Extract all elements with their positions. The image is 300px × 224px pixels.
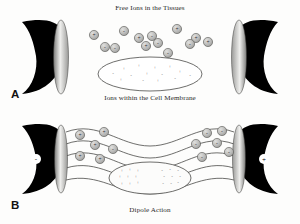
left-transducer-a: [22, 20, 69, 94]
membrane-charge-positive: +: [154, 65, 157, 70]
panel-b-letter: B: [11, 199, 19, 211]
membrane-charge-positive: +: [138, 63, 141, 68]
ion-negative: -: [110, 43, 119, 52]
svg-text:+: +: [137, 35, 140, 41]
ion-negative: -: [119, 26, 128, 35]
svg-text:-: -: [189, 41, 191, 47]
right-transducer-a: [232, 20, 279, 94]
ion-negative: -: [185, 39, 194, 48]
panel-a: Free Ions in the Tissues: [0, 0, 300, 112]
ion-negative: -: [100, 42, 109, 51]
panel-a-letter: A: [11, 88, 19, 100]
membrane-charge-positive: +: [169, 64, 172, 69]
svg-text:+: +: [144, 43, 147, 49]
ion-positive: +: [203, 37, 212, 46]
membrane-charge-positive: +: [123, 66, 126, 71]
ion-negative: -: [163, 48, 172, 57]
svg-text:+: +: [175, 26, 178, 32]
panel-a-caption: Ions within the Cell Membrane: [0, 94, 300, 102]
svg-text:-: -: [104, 44, 106, 50]
svg-text:-: -: [157, 40, 159, 46]
figure-container: Free Ions in the Tissues: [0, 0, 300, 224]
ion-positive: +: [172, 24, 181, 33]
svg-text:-: -: [123, 28, 125, 34]
membrane-charge-positive: +: [146, 71, 149, 76]
ion-positive: +: [141, 41, 150, 50]
svg-text:-: -: [167, 50, 169, 56]
svg-text:+: +: [194, 35, 197, 41]
membrane-charge-positive: +: [179, 69, 182, 74]
free-ion-group: +-+--+--++-+-: [89, 24, 212, 57]
ion-negative: -: [153, 38, 162, 47]
membrane-charge-positive: +: [157, 78, 160, 83]
panel-b-caption: Dipole Action: [0, 206, 300, 214]
svg-text:+: +: [92, 32, 95, 38]
membrane-charge-positive: +: [120, 77, 123, 82]
ion-positive: +: [134, 33, 143, 42]
svg-text:-: -: [114, 45, 116, 51]
svg-text:-: -: [151, 33, 153, 39]
svg-text:+: +: [206, 39, 209, 45]
ion-positive: +: [89, 30, 98, 39]
